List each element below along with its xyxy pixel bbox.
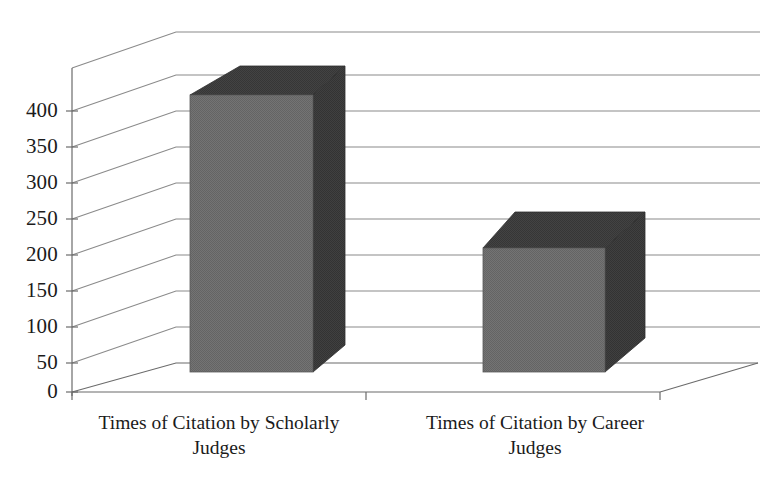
bar-career-judges[interactable] [483, 212, 645, 372]
bar-scholarly-judges-side-face [313, 66, 345, 372]
gridline-150 [72, 255, 760, 291]
bar-career-judges-front-face [483, 248, 605, 372]
y-tick-label-50: 50 [0, 352, 58, 373]
y-tick-label-0: 0 [0, 381, 58, 402]
floor-back-edge [72, 363, 758, 392]
y-tick-label-350: 350 [0, 136, 58, 157]
x-category-label-scholarly-judges-line1: Times of Citation by Scholarly [99, 412, 340, 433]
y-tick-label-300: 300 [0, 172, 58, 193]
gridline-350 [72, 111, 760, 147]
y-tick-label-400: 400 [0, 100, 58, 121]
bar-scholarly-judges-front-face [190, 95, 313, 372]
gridline-group [72, 32, 760, 363]
x-category-label-scholarly-judges: Times of Citation by Scholarly Judges [64, 410, 374, 460]
chart-container: 400 350 300 250 200 150 100 50 0 Times o… [0, 0, 783, 482]
gridline-450 [72, 32, 760, 68]
y-axis [66, 68, 78, 396]
x-category-label-career-judges-line2: Judges [508, 437, 561, 458]
y-tick-label-100: 100 [0, 316, 58, 337]
gridline-400 [72, 75, 760, 111]
y-tick-label-250: 250 [0, 208, 58, 229]
bar-scholarly-judges[interactable] [190, 66, 345, 372]
gridline-250 [72, 183, 760, 219]
x-category-label-career-judges-line1: Times of Citation by Career [426, 412, 644, 433]
floor-group [72, 363, 758, 392]
gridline-300 [72, 147, 760, 183]
y-tick-label-200: 200 [0, 244, 58, 265]
y-tick-label-150: 150 [0, 280, 58, 301]
x-category-label-scholarly-judges-line2: Judges [192, 437, 245, 458]
gridline-100 [72, 291, 760, 327]
floor-right-edge [660, 363, 758, 392]
x-axis-ticks [72, 392, 660, 400]
x-category-label-career-judges: Times of Citation by Career Judges [390, 410, 680, 460]
gridline-50 [72, 327, 760, 363]
gridline-200 [72, 219, 760, 255]
